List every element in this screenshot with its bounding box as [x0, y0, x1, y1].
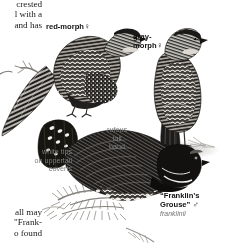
female-symbol-icon: ♀ — [84, 21, 90, 31]
label-gray-morph-female: gray- morph♀ — [133, 33, 163, 51]
label-rufous-tail-band: rufous tail band — [101, 126, 133, 152]
female-symbol-icon: ♀ — [157, 40, 163, 50]
male-symbol-icon: ♂ — [193, 199, 199, 209]
label-gray-morph-text: gray- morph — [133, 32, 157, 50]
body-text-top-column: crested l with a and has — [0, 0, 42, 30]
label-franklins-grouse-male: “Franklin’s Grouse” ♂franklinii — [160, 192, 199, 218]
label-red-morph-text: red-morph — [46, 22, 84, 31]
label-red-morph-female: red-morph♀ — [46, 22, 90, 31]
label-white-tips-uppertail-coverts: white tips on uppertail coverts — [12, 148, 72, 174]
body-text-bottom-column: all may "Frank- o found — [0, 207, 42, 238]
scientific-name: franklinii — [160, 210, 199, 218]
